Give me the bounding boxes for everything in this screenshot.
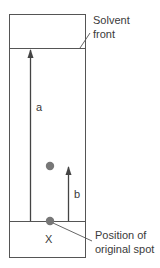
label-solvent-front-2: front: [93, 28, 115, 40]
label-origin-2: original spot: [95, 243, 154, 255]
label-b: b: [74, 188, 80, 200]
origin-spot-leader: [53, 223, 92, 241]
developed-spot: [46, 162, 54, 170]
arrow-b-head: [66, 166, 72, 175]
label-a: a: [36, 101, 43, 113]
tlc-diagram: Solvent front a b X Position of original…: [0, 0, 160, 268]
label-origin-1: Position of: [95, 229, 147, 241]
label-origin-x: X: [45, 233, 53, 245]
original-spot: [46, 217, 54, 225]
label-solvent-front-1: Solvent: [93, 14, 130, 26]
arrow-a-head: [28, 49, 34, 58]
